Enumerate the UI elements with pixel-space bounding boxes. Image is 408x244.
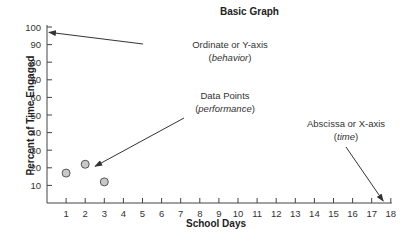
x-tick: 5 xyxy=(140,198,145,219)
abscissa-annotation: Abscissa or X-axis (time) xyxy=(290,117,402,143)
svg-text:17: 17 xyxy=(366,208,377,219)
svg-text:100: 100 xyxy=(25,22,41,33)
datapoints-subtext: performance xyxy=(198,103,251,114)
data-point xyxy=(100,178,108,186)
svg-text:13: 13 xyxy=(290,208,301,219)
svg-text:3: 3 xyxy=(102,208,107,219)
abscissa-subtext: time xyxy=(337,131,355,142)
svg-text:15: 15 xyxy=(328,208,339,219)
y-tick: 100 xyxy=(25,22,52,33)
svg-text:1: 1 xyxy=(63,208,68,219)
x-tick: 2 xyxy=(83,198,88,219)
datapoints-annotation: Data Points (performance) xyxy=(170,89,280,115)
y-axis-label: Percent of Time Engaged xyxy=(25,46,36,186)
x-tick: 17 xyxy=(366,198,377,219)
svg-text:11: 11 xyxy=(252,208,262,219)
datapoints-text: Data Points xyxy=(200,90,249,101)
svg-text:6: 6 xyxy=(159,208,164,219)
svg-text:5: 5 xyxy=(140,208,145,219)
x-tick: 12 xyxy=(271,198,282,219)
x-axis-label: School Days xyxy=(186,218,246,229)
svg-text:14: 14 xyxy=(309,208,320,219)
svg-text:4: 4 xyxy=(121,208,126,219)
abscissa-arrow xyxy=(346,147,383,201)
svg-text:7: 7 xyxy=(178,208,183,219)
data-point xyxy=(62,169,70,177)
x-tick: 8 xyxy=(197,198,202,219)
svg-text:18: 18 xyxy=(386,208,397,219)
ordinate-subtext: behavior xyxy=(212,52,248,63)
x-tick: 11 xyxy=(252,198,262,219)
abscissa-text: Abscissa or X-axis xyxy=(307,118,385,129)
ordinate-annotation: Ordinate or Y-axis (behavior) xyxy=(150,38,310,64)
x-tick: 7 xyxy=(178,198,183,219)
x-tick: 16 xyxy=(347,198,358,219)
x-tick: 9 xyxy=(216,198,221,219)
x-tick: 14 xyxy=(309,198,320,219)
ordinate-text: Ordinate or Y-axis xyxy=(192,39,268,50)
x-tick: 1 xyxy=(63,198,68,219)
datapoints-arrow xyxy=(95,118,184,166)
x-tick: 18 xyxy=(386,198,397,219)
svg-text:12: 12 xyxy=(271,208,282,219)
data-point xyxy=(81,160,89,168)
svg-text:2: 2 xyxy=(83,208,88,219)
x-tick: 6 xyxy=(159,198,164,219)
x-tick: 10 xyxy=(233,198,244,219)
ordinate-arrow xyxy=(49,32,143,44)
x-tick: 15 xyxy=(328,198,339,219)
x-tick: 3 xyxy=(102,198,107,219)
x-tick: 4 xyxy=(121,198,126,219)
svg-text:16: 16 xyxy=(347,208,358,219)
x-tick: 13 xyxy=(290,198,301,219)
